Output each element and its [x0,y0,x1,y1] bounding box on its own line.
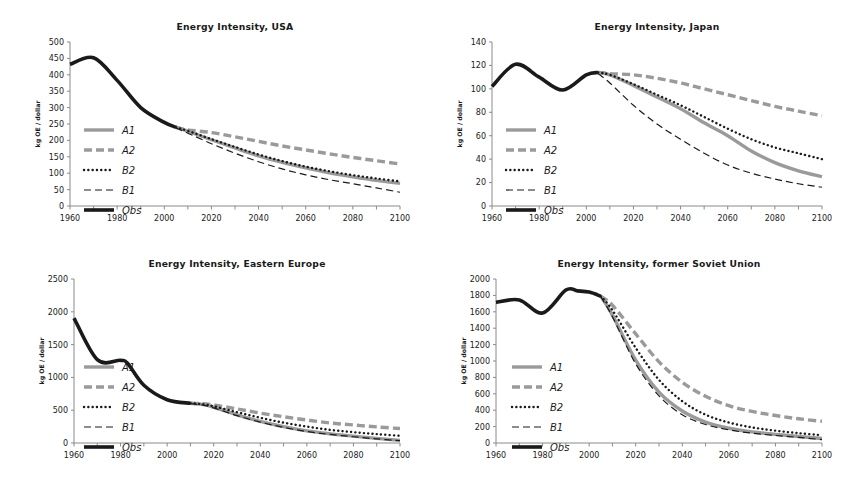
x-tick-label: 1960 [486,451,506,460]
chart-panel-japan: Energy Intensity, Japan02040608010012014… [440,18,840,240]
x-tick-label: 1960 [482,214,502,223]
legend-label-a2: A2 [543,145,557,156]
y-tick-label: 100 [49,169,64,178]
chart-svg-eastern-europe: Energy Intensity, Eastern Europe05001000… [18,255,418,477]
figure-canvas: Energy Intensity, USA0501001502002503003… [0,0,855,493]
y-axis-label: kg OE / dollar [34,100,42,148]
legend-label-a2: A2 [549,382,563,393]
x-tick-label: 2000 [157,451,177,460]
x-tick-label: 1960 [60,214,80,223]
chart-panel-former-soviet-union: Energy Intensity, former Soviet Union020… [440,255,840,477]
series-line-b2 [176,127,400,181]
y-tick-label: 1600 [470,308,490,317]
x-tick-label: 2060 [718,214,738,223]
legend-label-b1: B1 [544,185,557,196]
legend-label-b2: B2 [122,402,135,413]
chart-legend: A1A2B2B1Obs [506,125,563,216]
x-tick-label: 2080 [765,451,785,460]
y-tick-label: 2500 [48,275,68,284]
y-tick-label: 140 [471,38,486,47]
legend-label-b1: B1 [122,422,135,433]
series-line-a1 [190,403,400,440]
y-tick-label: 150 [49,153,64,162]
y-tick-label: 350 [49,87,64,96]
legend-label-b2: B2 [550,402,563,413]
x-tick-label: 2040 [672,451,692,460]
y-tick-label: 400 [475,406,490,415]
series-line-a1 [598,72,822,176]
series-line-a2 [176,127,400,164]
chart-panel-usa: Energy Intensity, USA0501001502002503003… [18,18,418,240]
x-tick-label: 2060 [719,451,739,460]
y-tick-label: 20 [476,178,486,187]
legend-label-b1: B1 [550,422,563,433]
legend-label-a1: A1 [121,125,135,136]
y-tick-label: 250 [49,120,64,129]
chart-svg-former-soviet-union: Energy Intensity, former Soviet Union020… [440,255,840,477]
y-tick-label: 800 [475,373,490,382]
y-tick-label: 60 [476,132,486,141]
chart-legend: A1A2B2B1Obs [84,362,141,453]
y-tick-label: 500 [53,406,68,415]
chart-legend: A1A2B2B1Obs [84,125,141,216]
legend-label-obs: Obs [544,205,563,216]
y-tick-label: 1800 [470,291,490,300]
legend-label-obs: Obs [122,442,141,453]
legend-label-b1: B1 [122,185,135,196]
y-tick-label: 0 [481,202,486,211]
y-tick-label: 0 [59,202,64,211]
x-tick-label: 2080 [343,451,363,460]
x-tick-label: 2000 [154,214,174,223]
x-tick-label: 2100 [390,451,410,460]
series-line-b2 [601,296,822,435]
y-tick-label: 600 [475,390,490,399]
x-tick-label: 2020 [201,214,221,223]
y-axis-label: kg OE / dollar [38,337,46,385]
series-line-obs [70,57,176,127]
y-tick-label: 1400 [470,324,490,333]
chart-title-eastern-europe: Energy Intensity, Eastern Europe [148,258,325,269]
y-axis-label: kg OE / dollar [456,100,464,148]
x-tick-label: 2080 [765,214,785,223]
x-tick-label: 2100 [812,214,832,223]
y-tick-label: 1000 [48,373,68,382]
y-tick-label: 450 [49,54,64,63]
y-tick-label: 300 [49,104,64,113]
y-tick-label: 0 [63,439,68,448]
y-tick-label: 40 [476,155,486,164]
x-tick-label: 2080 [343,214,363,223]
x-tick-label: 2040 [670,214,690,223]
y-tick-label: 200 [475,423,490,432]
chart-title-former-soviet-union: Energy Intensity, former Soviet Union [557,258,760,269]
y-tick-label: 2000 [48,308,68,317]
legend-label-a1: A1 [121,362,135,373]
x-tick-label: 2020 [204,451,224,460]
y-tick-label: 100 [471,85,486,94]
chart-svg-japan: Energy Intensity, Japan02040608010012014… [440,18,840,240]
x-tick-label: 2100 [390,214,410,223]
legend-label-b2: B2 [544,165,557,176]
chart-svg-usa: Energy Intensity, USA0501001502002503003… [18,18,418,240]
y-tick-label: 120 [471,61,486,70]
series-line-obs [492,64,598,90]
y-tick-label: 80 [476,108,486,117]
x-tick-label: 1960 [64,451,84,460]
x-tick-label: 2040 [248,214,268,223]
y-tick-label: 1000 [470,357,490,366]
x-tick-label: 2020 [626,451,646,460]
x-tick-label: 2040 [250,451,270,460]
x-tick-label: 2100 [812,451,832,460]
y-tick-label: 1500 [48,341,68,350]
legend-label-a1: A1 [549,362,563,373]
y-tick-label: 2000 [470,275,490,284]
legend-label-obs: Obs [122,205,141,216]
x-tick-label: 2000 [576,214,596,223]
y-tick-label: 1200 [470,341,490,350]
y-tick-label: 500 [49,38,64,47]
y-tick-label: 50 [54,186,64,195]
legend-label-a2: A2 [121,145,135,156]
y-tick-label: 200 [49,136,64,145]
chart-legend: A1A2B2B1Obs [512,362,569,453]
chart-panel-eastern-europe: Energy Intensity, Eastern Europe05001000… [18,255,418,477]
legend-label-obs: Obs [550,442,569,453]
